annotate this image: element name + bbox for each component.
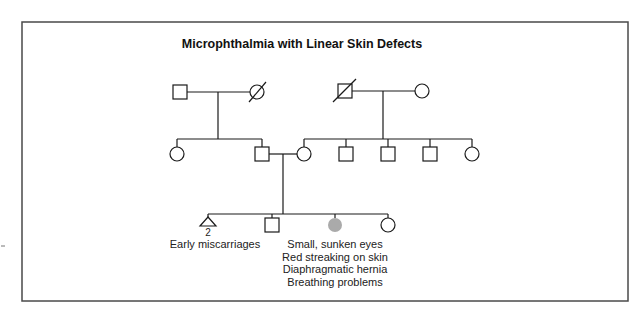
individual-II-6-male	[423, 147, 437, 161]
individual-III-2-male	[265, 218, 279, 232]
individual-I-2-female-deceased	[249, 82, 266, 102]
miscarriage-count: 2	[205, 227, 211, 238]
pedigree-diagram: Microphthalmia with Linear Skin Defects …	[0, 0, 644, 319]
miscarriage-label: Early miscarriages	[170, 238, 261, 250]
individual-III-1-miscarriage-triangle	[200, 217, 216, 226]
individual-II-7-female	[465, 147, 479, 161]
individual-II-3-female	[297, 147, 311, 161]
individual-I-3-male-deceased	[333, 79, 356, 102]
phenotype-item: Small, sunken eyes	[287, 238, 383, 250]
individual-II-1-female	[170, 147, 184, 161]
individual-I-1-male	[173, 85, 187, 99]
individual-II-5-male	[381, 147, 395, 161]
individual-II-4-male	[339, 147, 353, 161]
phenotype-list: Small, sunken eyes Red streaking on skin…	[282, 238, 388, 288]
phenotype-item: Red streaking on skin	[282, 251, 388, 263]
phenotype-item: Breathing problems	[287, 276, 383, 288]
individual-III-4-female	[381, 218, 395, 232]
phenotype-item: Diaphragmatic hernia	[283, 263, 388, 275]
individual-I-4-female	[415, 84, 429, 98]
individual-III-3-female-affected	[328, 218, 342, 232]
individual-II-2-male	[255, 147, 269, 161]
diagram-title: Microphthalmia with Linear Skin Defects	[182, 37, 422, 51]
